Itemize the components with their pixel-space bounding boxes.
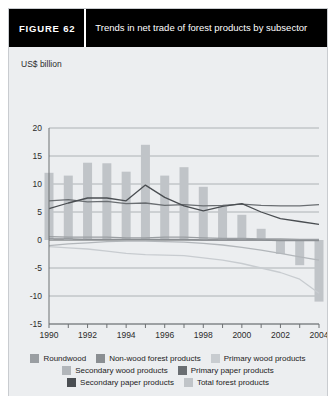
legend-label: Non-wood forest products xyxy=(109,354,201,363)
legend-item: Roundwood xyxy=(30,354,86,363)
legend-swatch-icon xyxy=(67,378,76,387)
y-axis-tick-label: -5 xyxy=(34,263,42,273)
legend-swatch-icon xyxy=(211,354,220,363)
legend-item: Secondary wood products xyxy=(62,366,168,375)
figure-header: FIGURE 62 Trends in net trade of forest … xyxy=(9,9,327,47)
legend-item: Total forest products xyxy=(184,378,269,387)
x-axis-tick-label: 1998 xyxy=(194,330,213,340)
x-axis-tick-label: 1992 xyxy=(78,330,97,340)
figure-number-tag: FIGURE 62 xyxy=(9,9,86,47)
chart-bar xyxy=(160,176,169,240)
chart-bar xyxy=(276,240,285,254)
chart-bar xyxy=(295,240,304,265)
legend-swatch-icon xyxy=(30,354,39,363)
legend-label: Primary paper products xyxy=(191,366,274,375)
figure-card: FIGURE 62 Trends in net trade of forest … xyxy=(8,8,328,396)
chart-plot-area: -15-10-505101520199019921994199619982000… xyxy=(9,47,327,347)
legend-swatch-icon xyxy=(184,378,193,387)
legend-row: Secondary paper productsTotal forest pro… xyxy=(15,378,321,387)
chart-bar xyxy=(122,172,131,240)
figure-title: Trends in net trade of forest products b… xyxy=(86,9,327,47)
legend-item: Secondary paper products xyxy=(67,378,174,387)
chart-bar xyxy=(315,240,324,302)
legend-label: Secondary wood products xyxy=(75,366,168,375)
y-axis-tick-label: 0 xyxy=(37,235,42,245)
chart-bar xyxy=(64,176,73,240)
legend-label: Total forest products xyxy=(197,378,269,387)
legend-swatch-icon xyxy=(62,366,71,375)
x-axis-tick-label: 2000 xyxy=(232,330,251,340)
legend-label: Secondary paper products xyxy=(80,378,174,387)
legend-item: Non-wood forest products xyxy=(96,354,201,363)
x-axis-tick-label: 2002 xyxy=(271,330,290,340)
y-axis-tick-label: 15 xyxy=(33,151,43,161)
legend-label: Roundwood xyxy=(43,354,86,363)
figure-body: US$ billion -15-10-505101520199019921994… xyxy=(9,47,327,396)
legend-row: Secondary wood productsPrimary paper pro… xyxy=(15,366,321,375)
chart-bar xyxy=(141,145,150,240)
chart-bar xyxy=(199,187,208,240)
legend-item: Primary wood products xyxy=(211,354,306,363)
x-axis-tick-label: 1996 xyxy=(155,330,174,340)
legend-item: Primary paper products xyxy=(178,366,274,375)
y-axis-tick-label: 5 xyxy=(37,207,42,217)
x-axis-tick-label: 2004 xyxy=(310,330,327,340)
legend-label: Primary wood products xyxy=(224,354,306,363)
chart-bar xyxy=(218,206,227,240)
y-axis-tick-label: 10 xyxy=(33,179,43,189)
chart-bar xyxy=(237,215,246,240)
net-trade-chart-svg: -15-10-505101520199019921994199619982000… xyxy=(9,47,327,347)
x-axis-tick-label: 1994 xyxy=(117,330,136,340)
legend-swatch-icon xyxy=(178,366,187,375)
x-axis-tick-label: 1990 xyxy=(40,330,59,340)
legend-row: RoundwoodNon-wood forest productsPrimary… xyxy=(15,354,321,363)
chart-legend: RoundwoodNon-wood forest productsPrimary… xyxy=(9,354,327,390)
chart-bar xyxy=(180,167,189,240)
legend-swatch-icon xyxy=(96,354,105,363)
y-axis-tick-label: 20 xyxy=(33,123,43,133)
y-axis-tick-label: -15 xyxy=(30,319,43,329)
y-axis-tick-label: -10 xyxy=(30,291,43,301)
